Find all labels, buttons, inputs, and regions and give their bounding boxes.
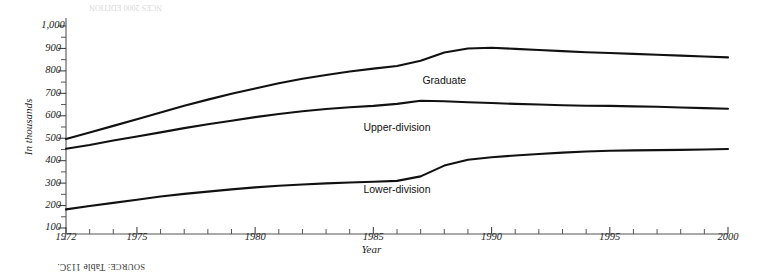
x-axis-tick-label: 1980 (245, 231, 267, 242)
x-axis-tick-label: 1972 (56, 231, 78, 242)
x-axis-tick-label: 1995 (599, 231, 620, 242)
x-axis-title: Year (361, 243, 381, 255)
rotated-figure-container: 1972197519801985199019952000Year10020030… (0, 0, 758, 278)
x-axis-tick-label: 1975 (126, 231, 147, 242)
source-note: SOURCE: Table 113C. (57, 262, 145, 272)
enrollment-line-chart: 1972197519801985199019952000Year10020030… (0, 0, 758, 278)
source-label: SOURCE: (108, 262, 145, 272)
y-axis-tick-label: 900 (45, 42, 62, 53)
y-axis-tick-label: 1,000 (41, 19, 65, 30)
x-axis-tick-label: 1985 (363, 231, 384, 242)
x-axis-tick-label: 2000 (718, 231, 740, 242)
y-axis-tick-label: 500 (45, 132, 62, 143)
series-label-graduate: Graduate (422, 74, 466, 86)
series-label-upper-division: Upper-division (363, 121, 430, 133)
faint-footer-text: NCES 2000 EDITION (89, 3, 162, 12)
y-axis-tick-label: 600 (45, 109, 62, 120)
y-axis-tick-label: 200 (45, 199, 62, 210)
y-axis-tick-label: 100 (45, 221, 62, 232)
y-axis-tick-label: 800 (45, 64, 62, 75)
y-axis-tick-label: 400 (45, 154, 62, 165)
series-label-lower-division: Lower-division (363, 183, 430, 195)
series-line-lower-division (66, 149, 728, 209)
y-axis-title: In thousands (22, 99, 34, 157)
source-value: Table 113C. (57, 262, 105, 272)
x-axis-tick-label: 1990 (481, 231, 503, 242)
y-axis-tick-label: 700 (45, 87, 62, 98)
chart-plot-area: 1972197519801985199019952000Year10020030… (0, 0, 758, 278)
y-axis-tick-label: 300 (44, 177, 62, 188)
